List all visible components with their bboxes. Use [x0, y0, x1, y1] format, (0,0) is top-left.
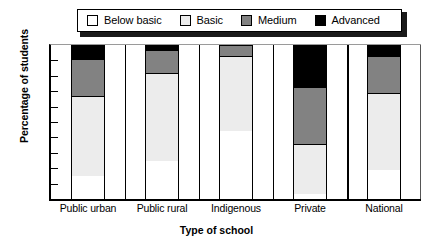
- x-axis-category-label: Indigenous: [211, 203, 261, 214]
- y-axis-tick-mark: [51, 91, 58, 92]
- y-axis-tick-mark: [51, 107, 58, 108]
- chart-legend: Below basicBasicMediumAdvanced: [77, 9, 402, 32]
- bar-segment-below-basic: [146, 161, 178, 200]
- bar-segment-medium: [220, 45, 252, 56]
- bar-segment-advanced: [294, 45, 326, 87]
- bar-indigenous: [219, 45, 253, 199]
- bar-segment-basic: [368, 93, 400, 170]
- y-axis-tick-mark: [51, 122, 58, 123]
- legend-item: Below basic: [87, 15, 162, 26]
- bar-private: [293, 45, 327, 199]
- y-axis-tick-mark: [51, 76, 58, 77]
- y-axis-tick-mark: [51, 60, 58, 61]
- plot-right-edge: [420, 45, 421, 199]
- legend-item-label: Below basic: [104, 15, 162, 26]
- legend-item-label: Advanced: [332, 15, 380, 26]
- category-separator: [347, 45, 349, 199]
- category-separator: [199, 45, 200, 199]
- legend-swatch-icon: [241, 15, 252, 26]
- stacked-bar-chart: Below basicBasicMediumAdvanced Percentag…: [0, 0, 433, 245]
- y-axis-tick-mark: [51, 153, 58, 154]
- bar-segment-below-basic: [368, 170, 400, 199]
- legend-item-label: Medium: [258, 15, 297, 26]
- bar-public-urban: [71, 45, 105, 199]
- y-axis-tick-mark: [51, 168, 58, 169]
- bar-segment-below-basic: [294, 194, 326, 199]
- bar-segment-below-basic: [72, 176, 104, 199]
- bar-segment-medium: [294, 87, 326, 144]
- bar-segment-medium: [368, 56, 400, 93]
- x-axis-title: Type of school: [0, 224, 433, 236]
- bar-national: [367, 45, 401, 199]
- y-axis-title: Percentage of students: [18, 6, 30, 166]
- category-separator: [125, 45, 126, 199]
- legend-item: Advanced: [315, 15, 380, 26]
- legend-swatch-icon: [315, 15, 326, 26]
- legend-item-label: Basic: [197, 15, 223, 26]
- bar-segment-medium: [72, 59, 104, 96]
- bar-segment-basic: [294, 144, 326, 195]
- y-axis-tick-mark: [51, 184, 58, 185]
- x-axis-category-label: Private: [294, 203, 326, 214]
- legend-swatch-icon: [180, 15, 191, 26]
- legend-item: Basic: [180, 15, 223, 26]
- y-axis-tick-mark: [51, 137, 58, 138]
- legend-swatch-icon: [87, 15, 98, 26]
- bar-segment-basic: [72, 96, 104, 176]
- bar-segment-advanced: [368, 45, 400, 56]
- bar-segment-medium: [146, 50, 178, 73]
- bar-segment-basic: [146, 73, 178, 161]
- plot-inner: 0102030405060708090100: [51, 45, 421, 199]
- legend-item: Medium: [241, 15, 297, 26]
- bar-segment-basic: [220, 56, 252, 131]
- plot-area: 0102030405060708090100 Public urbanPubli…: [49, 44, 421, 201]
- x-axis-category-label: Public rural: [137, 203, 188, 214]
- x-axis-category-label: Public urban: [60, 203, 117, 214]
- bar-public-rural: [145, 45, 179, 199]
- bar-segment-below-basic: [220, 131, 252, 199]
- category-separator: [273, 45, 274, 199]
- bar-segment-advanced: [72, 45, 104, 59]
- x-axis-category-label: National: [365, 203, 402, 214]
